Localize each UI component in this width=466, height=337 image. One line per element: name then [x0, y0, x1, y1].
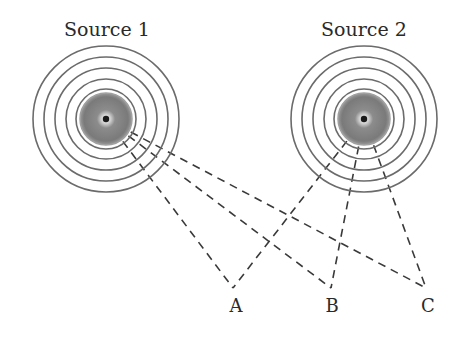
source-2	[291, 46, 437, 192]
source-1	[33, 46, 179, 192]
point-B-label: B	[325, 295, 338, 316]
path-lines	[106, 119, 426, 288]
path-line-source-1-to-C	[106, 119, 426, 288]
point-A-label: A	[229, 295, 244, 316]
source-center-dot	[103, 116, 109, 122]
sources	[33, 46, 437, 192]
point-C-label: C	[421, 295, 435, 316]
interference-diagram: Source 1Source 2ABC	[0, 0, 466, 337]
path-line-source-1-to-A	[106, 119, 233, 288]
source-2-label: Source 2	[321, 18, 407, 40]
path-line-source-1-to-B	[106, 119, 331, 288]
source-1-label: Source 1	[64, 18, 150, 40]
source-center-dot	[361, 116, 367, 122]
